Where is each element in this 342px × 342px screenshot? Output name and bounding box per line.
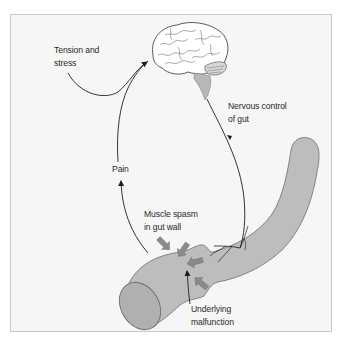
label-tension-and-stress: Tension and stress <box>54 44 99 69</box>
brainstem <box>194 73 211 100</box>
label-pain: Pain <box>112 163 129 176</box>
label-tension-line1: Tension and <box>54 44 99 57</box>
label-nervous-control: Nervous control of gut <box>228 100 287 125</box>
label-spasm-line1: Muscle spasm <box>144 208 198 221</box>
label-spasm-line2: in gut wall <box>144 221 198 234</box>
label-underlying-malfunction: Underlying malfunction <box>191 303 234 328</box>
label-malfunction-line1: Underlying <box>191 303 234 316</box>
label-muscle-spasm: Muscle spasm in gut wall <box>144 208 198 233</box>
label-malfunction-line2: malfunction <box>191 316 234 329</box>
label-pain-line1: Pain <box>112 163 129 176</box>
label-nervous-line2: of gut <box>228 113 287 126</box>
spasm-arrow-1 <box>154 234 173 253</box>
brain-gut-diagram <box>0 0 342 342</box>
label-nervous-line1: Nervous control <box>228 100 287 113</box>
label-tension-line2: stress <box>54 57 99 70</box>
brain <box>152 23 227 100</box>
